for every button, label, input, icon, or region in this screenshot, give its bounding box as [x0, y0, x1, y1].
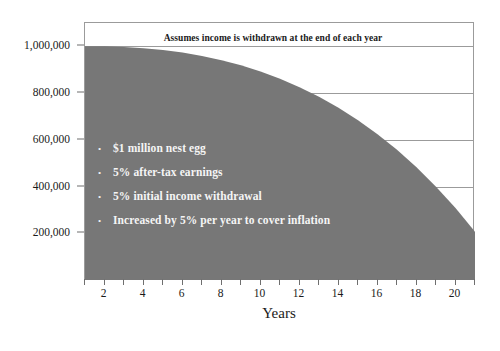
x-axis-tick	[474, 279, 475, 285]
x-axis-tick	[299, 279, 300, 285]
x-axis-tick	[279, 279, 280, 285]
callout-text: $1 million nest egg	[113, 140, 348, 156]
x-axis-tick	[221, 279, 222, 285]
x-axis-tick	[201, 279, 202, 285]
x-axis-tick-label: 10	[254, 287, 266, 299]
chart-container: 200,000400,000600,000800,0001,000,000 As…	[0, 0, 500, 351]
y-axis-tick	[77, 185, 84, 186]
x-axis-tick	[123, 279, 124, 285]
x-axis-tick	[396, 279, 397, 285]
callout-text: 5% initial income withdrawal	[113, 188, 348, 204]
x-axis-tick-label: 16	[371, 287, 383, 299]
x-axis-tick-label: 12	[293, 287, 305, 299]
callout-text: Increased by 5% per year to cover inflat…	[113, 212, 348, 228]
x-axis-tick	[260, 279, 261, 285]
x-axis-tick-label: 4	[140, 287, 146, 299]
x-axis-tick	[435, 279, 436, 285]
x-axis-tick	[104, 279, 105, 285]
x-axis-tick-label: 18	[410, 287, 422, 299]
y-axis: 200,000400,000600,000800,0001,000,000	[0, 0, 84, 300]
x-axis-tick	[416, 279, 417, 285]
x-axis-tick	[143, 279, 144, 285]
y-axis-tick-label: 1,000,000	[24, 39, 70, 51]
y-axis-tick	[77, 232, 84, 233]
bullet-icon: •	[98, 140, 113, 154]
x-axis-title: Years	[84, 305, 474, 322]
x-axis-tick	[338, 279, 339, 285]
y-axis-tick	[77, 45, 84, 46]
x-axis-tick	[377, 279, 378, 285]
bullet-icon: •	[98, 212, 113, 226]
list-item: • Increased by 5% per year to cover infl…	[98, 212, 348, 228]
x-axis-tick	[455, 279, 456, 285]
x-axis-tick	[240, 279, 241, 285]
x-axis-tick-label: 2	[101, 287, 107, 299]
x-axis-tick	[162, 279, 163, 285]
y-axis-tick-label: 800,000	[33, 86, 70, 98]
y-axis-tick-label: 200,000	[33, 226, 70, 238]
callout-text: 5% after-tax earnings	[113, 164, 348, 180]
callout-list: • $1 million nest egg • 5% after-tax ear…	[98, 140, 348, 236]
bullet-icon: •	[98, 164, 113, 178]
x-axis-tick	[357, 279, 358, 285]
x-axis-tick	[318, 279, 319, 285]
list-item: • $1 million nest egg	[98, 140, 348, 156]
x-axis-tick	[84, 279, 85, 285]
y-axis-tick-label: 400,000	[33, 180, 70, 192]
x-axis-tick-label: 8	[218, 287, 224, 299]
list-item: • 5% after-tax earnings	[98, 164, 348, 180]
y-axis-tick	[77, 92, 84, 93]
list-item: • 5% initial income withdrawal	[98, 188, 348, 204]
x-axis-tick-label: 14	[332, 287, 344, 299]
x-axis-tick-label: 20	[449, 287, 461, 299]
chart-annotation: Assumes income is withdrawn at the end o…	[84, 33, 470, 43]
x-axis-tick-label: 6	[179, 287, 185, 299]
bullet-icon: •	[98, 188, 113, 202]
y-axis-tick-label: 600,000	[33, 133, 70, 145]
x-axis-tick	[182, 279, 183, 285]
y-axis-tick	[77, 138, 84, 139]
